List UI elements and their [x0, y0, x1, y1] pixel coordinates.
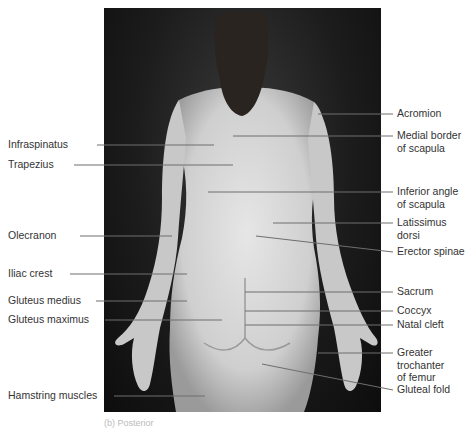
label-line: Natal cleft	[397, 318, 444, 331]
label-line: Erector spinae	[397, 245, 465, 258]
label-line: dorsi	[397, 229, 447, 242]
posterior-body-photo	[104, 8, 381, 412]
label-line: Greater	[397, 346, 444, 359]
label-trapezius: Trapezius	[8, 158, 54, 171]
label-line: of femur	[397, 371, 444, 384]
label-line: of scapula	[397, 198, 458, 211]
label-line: of scapula	[397, 142, 461, 155]
anatomy-figure-posterior: InfraspinatusTrapeziusOlecranonIliac cre…	[0, 0, 476, 435]
label-hamstring-muscles: Hamstring muscles	[8, 389, 97, 402]
label-line: Gluteal fold	[397, 383, 450, 396]
figure-caption: (b) Posterior	[104, 418, 154, 428]
label-line: Latissimus	[397, 216, 447, 229]
label-acromion: Acromion	[397, 107, 441, 120]
label-sacrum: Sacrum	[397, 285, 433, 298]
label-medial-border-of-scapula: Medial borderof scapula	[397, 129, 461, 154]
label-line: Medial border	[397, 129, 461, 142]
label-line: Sacrum	[397, 285, 433, 298]
label-iliac-crest: Iliac crest	[8, 267, 52, 280]
label-natal-cleft: Natal cleft	[397, 318, 444, 331]
label-line: Coccyx	[397, 304, 431, 317]
label-gluteal-fold: Gluteal fold	[397, 383, 450, 396]
body-silhouette	[104, 8, 381, 412]
label-gluteus-medius: Gluteus medius	[8, 294, 81, 307]
label-coccyx: Coccyx	[397, 304, 431, 317]
label-olecranon: Olecranon	[8, 229, 56, 242]
label-line: trochanter	[397, 359, 444, 372]
label-infraspinatus: Infraspinatus	[8, 138, 68, 151]
label-gluteus-maximus: Gluteus maximus	[8, 313, 89, 326]
label-line: Acromion	[397, 107, 441, 120]
label-greater-trochanter-of-femur: Greatertrochanterof femur	[397, 346, 444, 384]
label-inferior-angle-of-scapula: Inferior angleof scapula	[397, 185, 458, 210]
label-latissimus-dorsi: Latissimusdorsi	[397, 216, 447, 241]
label-line: Inferior angle	[397, 185, 458, 198]
label-erector-spinae: Erector spinae	[397, 245, 465, 258]
